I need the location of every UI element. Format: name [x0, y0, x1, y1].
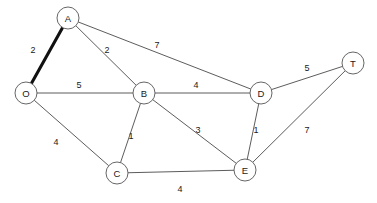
edge-weight-o-c: 4 [53, 137, 58, 147]
graph-node-o[interactable]: O [15, 82, 37, 104]
edge-weight-c-e: 4 [177, 184, 182, 194]
graph-node-e[interactable]: E [234, 159, 256, 181]
edge-weight-o-b: 5 [76, 80, 81, 90]
node-circle-e[interactable] [234, 159, 256, 181]
graph-diagram-canvas: AOBDTCE 227545413174 [0, 0, 377, 203]
graph-edge-o-a [31, 28, 62, 84]
edge-weight-e-t: 7 [304, 125, 309, 135]
edge-weight-b-e: 3 [195, 125, 200, 135]
graph-edge-b-c [121, 103, 141, 162]
edge-weight-b-d: 4 [193, 80, 198, 90]
graph-edge-d-t [271, 66, 342, 89]
node-circle-t[interactable] [342, 52, 364, 74]
graph-edge-a-b [76, 26, 136, 86]
edge-weight-a-b: 2 [104, 45, 109, 55]
edge-weights-layer: 227545413174 [30, 40, 309, 194]
edges-layer [31, 22, 345, 173]
edge-weight-o-a: 2 [30, 45, 35, 55]
node-circle-b[interactable] [133, 82, 155, 104]
nodes-layer: AOBDTCE [15, 7, 364, 184]
graph-edge-o-c [34, 100, 108, 165]
graph-svg: AOBDTCE 227545413174 [0, 0, 377, 203]
graph-node-d[interactable]: D [250, 82, 272, 104]
node-circle-c[interactable] [106, 162, 128, 184]
node-circle-d[interactable] [250, 82, 272, 104]
node-circle-o[interactable] [15, 82, 37, 104]
graph-node-a[interactable]: A [57, 7, 79, 29]
graph-edge-d-e [247, 104, 259, 159]
graph-edge-a-d [78, 22, 251, 89]
graph-node-c[interactable]: C [106, 162, 128, 184]
graph-node-t[interactable]: T [342, 52, 364, 74]
edge-weight-d-t: 5 [304, 63, 309, 73]
graph-edge-b-e [153, 100, 237, 164]
edge-weight-a-d: 7 [154, 40, 159, 50]
graph-node-b[interactable]: B [133, 82, 155, 104]
graph-edge-c-e [128, 170, 234, 172]
node-circle-a[interactable] [57, 7, 79, 29]
